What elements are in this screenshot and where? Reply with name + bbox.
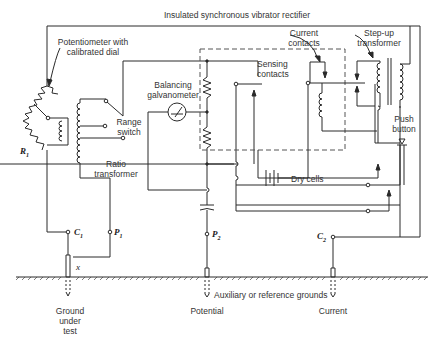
p2-sub: 2 xyxy=(218,235,221,241)
galvanometer-line2: galvanometer xyxy=(143,90,203,100)
range-switch-line1: Range xyxy=(112,117,146,127)
potentiometer-resistor xyxy=(23,86,47,150)
dry-cells-label: Dry cells xyxy=(291,174,324,184)
r1-label: R1 xyxy=(20,146,29,158)
sensing-contacts-line2: contacts xyxy=(257,69,289,79)
c2-terminal-label: C2 xyxy=(317,231,326,243)
galvanometer-line1: Balancing xyxy=(143,80,203,90)
step-up-primary xyxy=(377,61,380,99)
ground-under-test-label: Ground under test xyxy=(50,306,90,336)
current-ground-label: Current xyxy=(313,306,353,316)
current-contacts-label: Current contacts xyxy=(284,28,324,48)
p2-terminal-label: P2 xyxy=(212,229,221,241)
galvanometer-label: Balancing galvanometer xyxy=(143,80,203,100)
sensing-contacts-line1: Sensing xyxy=(257,59,289,69)
c1-terminal-label: C1 xyxy=(74,227,83,239)
c2-sub: 2 xyxy=(323,237,326,243)
step-up-secondary xyxy=(400,64,403,108)
push-button-line1: Push xyxy=(389,114,419,124)
range-switch-line2: switch xyxy=(112,127,146,137)
ground-under-test-line3: test xyxy=(50,326,90,336)
range-switch-label: Range switch xyxy=(112,117,146,137)
ratio-transformer-line1: Ratio xyxy=(90,159,142,169)
step-up-line1: Step-up xyxy=(354,28,404,38)
step-up-line2: transformer xyxy=(354,38,404,48)
c1-sub: 1 xyxy=(80,233,83,239)
current-contacts-line2: contacts xyxy=(284,38,324,48)
r1-sub: 1 xyxy=(26,152,29,158)
sensing-contacts-label: Sensing contacts xyxy=(257,59,289,79)
p1-terminal-label: P1 xyxy=(114,227,123,239)
ground-under-test-line2: under xyxy=(50,316,90,326)
auxiliary-grounds-label: Auxiliary or reference grounds xyxy=(214,290,327,300)
ground-under-test-line1: Ground xyxy=(50,306,90,316)
galvanometer xyxy=(168,103,186,121)
range-switch-arm xyxy=(107,102,123,116)
step-up-transformer-label: Step-up transformer xyxy=(354,28,404,48)
ratio-transformer-coil xyxy=(77,103,80,163)
push-button-line2: button xyxy=(389,124,419,134)
x-distance-label: x xyxy=(76,262,80,272)
push-button-label: Push button xyxy=(389,114,419,134)
current-contacts-line1: Current xyxy=(284,28,324,38)
diagram-title: Insulated synchronous vibrator rectifier xyxy=(164,10,310,20)
potential-ground-label: Potential xyxy=(187,306,227,316)
potentiometer-wiper xyxy=(34,104,48,118)
ratio-transformer-label: Ratio transformer xyxy=(90,159,142,179)
potentiometer-label: Potentiometer with calibrated dial xyxy=(54,37,132,57)
potentiometer-label-line1: Potentiometer with xyxy=(54,37,132,47)
p1-sub: 1 xyxy=(120,233,123,239)
potentiometer-label-line2: calibrated dial xyxy=(54,47,132,57)
ratio-transformer-line2: transformer xyxy=(90,169,142,179)
